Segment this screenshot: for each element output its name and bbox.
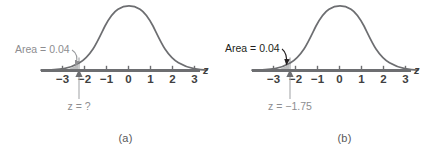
panel-a: −3 −2 −1 0 1 2 3 z Area = 0.04 z = ? (a): [0, 0, 215, 148]
z-axis-name: z: [202, 64, 209, 76]
area-leader-line: [72, 50, 77, 66]
tick-label-neg1: −1: [100, 73, 114, 85]
panel-b: −3 −2 −1 0 1 2 3 z Area = 0.04 z = −1.75…: [215, 0, 430, 148]
tick-label-3: 3: [191, 73, 197, 85]
panel-a-caption: (a): [0, 132, 233, 144]
panel-b-chart: −3 −2 −1 0 1 2 3 z Area = 0.04 z = −1.75: [215, 0, 430, 148]
tick-label-3: 3: [402, 73, 408, 85]
tick-label-neg3: −3: [56, 73, 69, 85]
area-label: Area = 0.04: [225, 42, 280, 54]
tick-label-2: 2: [380, 73, 386, 85]
tick-label-1: 1: [358, 73, 365, 85]
z-axis-name: z: [413, 64, 420, 76]
tick-label-neg1: −1: [311, 73, 325, 85]
tick-label-0: 0: [336, 73, 342, 85]
normal-curve: [252, 6, 418, 70]
tick-label-1: 1: [147, 73, 154, 85]
tick-label-0: 0: [125, 73, 131, 85]
normal-curve-figure: −3 −2 −1 0 1 2 3 z Area = 0.04 z = ? (a): [0, 0, 430, 148]
tick-label-2: 2: [169, 73, 175, 85]
normal-curve: [41, 6, 207, 70]
z-value-label: z = ?: [67, 100, 90, 112]
z-value-label: z = −1.75: [268, 100, 312, 112]
tick-label-neg3: −3: [267, 73, 280, 85]
area-label: Area = 0.04: [15, 43, 70, 55]
panel-b-caption: (b): [215, 132, 430, 144]
area-leader-line: [282, 49, 287, 65]
panel-a-chart: −3 −2 −1 0 1 2 3 z Area = 0.04 z = ?: [0, 0, 215, 148]
